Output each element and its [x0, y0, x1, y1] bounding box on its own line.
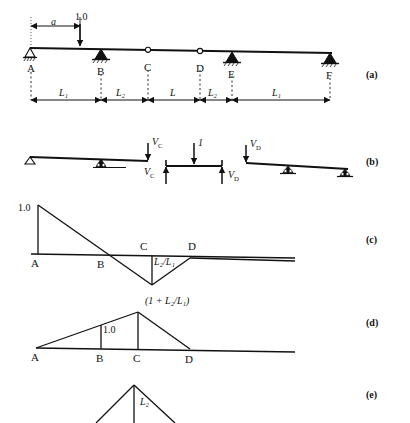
force-label-unit-b: 1 [198, 138, 203, 148]
offset-dim-label-a: a [51, 17, 56, 27]
panel-tag-d: (d) [366, 318, 378, 328]
unit-label-d: 1.0 [103, 325, 116, 335]
dim-label-l2-left: L₂ [116, 88, 125, 98]
slope-a-to-dip-c [38, 205, 152, 285]
slope-a-to-c-d [36, 312, 138, 348]
support-e-symbol-b [280, 166, 296, 174]
node-label-a-c: A [31, 258, 39, 269]
node-label-f: F [326, 70, 332, 81]
force-sub-vc-bottom: C [150, 172, 155, 179]
dimension-chain-a [31, 70, 330, 100]
support-f-symbol-b [337, 169, 353, 177]
force-sub-vd-bottom: D [234, 175, 239, 182]
force-sub-vc-top: C [158, 142, 163, 149]
node-label-d-d: D [185, 354, 193, 365]
node-label-a-d: A [31, 352, 39, 363]
node-label-d-c: D [188, 241, 196, 252]
beam-segment-right-b [246, 163, 348, 169]
dim-label-l2-right: L₂ [208, 88, 217, 98]
dim-label-l1-right: L₁ [272, 88, 281, 98]
dim-label-l: L [170, 88, 176, 98]
panel-tag-e: (e) [366, 390, 377, 400]
node-label-b-d: B [96, 353, 103, 364]
peak-label-d: (1 + L₂/L₁) [145, 296, 189, 306]
panel-e-graphics [96, 385, 175, 423]
panel-b-graphics [25, 143, 353, 184]
node-label-d: D [196, 63, 204, 74]
panel-c-graphics [31, 205, 295, 285]
beam-segment-left-b [30, 157, 148, 161]
node-label-a: A [27, 63, 35, 74]
node-label-c: C [144, 62, 151, 73]
dip-label-c: L₂/L₁ [154, 257, 175, 267]
beam-line-a [30, 48, 332, 53]
force-label-vd-bottom: VD [228, 170, 239, 183]
force-label-vd-top: VD [250, 139, 261, 152]
peak-label-c: 1.0 [18, 203, 31, 213]
figure-vector-layer [0, 0, 410, 423]
force-label-vc-top: VC [152, 137, 163, 150]
peak-label-e: L₂ [140, 397, 149, 407]
panel-tag-c: (c) [366, 235, 377, 245]
panel-tag-a: (a) [366, 70, 378, 80]
force-sub-vd-top: D [256, 144, 261, 151]
panel-tag-b: (b) [366, 157, 378, 167]
slope-c-to-d-d [138, 312, 190, 349]
support-e-symbol [223, 52, 241, 66]
node-label-c-d: C [133, 353, 140, 364]
support-a-symbol [23, 48, 37, 61]
figure-sheet: 1.0 a A B C D E F L₁ L₂ L L₂ L₁ VC 1 VD … [0, 0, 410, 423]
force-label-vc-bottom: VC [144, 167, 155, 180]
baseline-d [36, 348, 295, 352]
support-b-symbol [92, 49, 110, 63]
hinge-d-symbol [197, 48, 202, 53]
unit-load-label-a: 1.0 [75, 12, 88, 22]
node-label-e: E [228, 69, 235, 80]
slope-left-e [96, 385, 134, 423]
hinge-c-symbol [145, 47, 150, 52]
support-f-symbol [321, 53, 339, 67]
node-label-c-c: C [140, 241, 147, 252]
panel-a-graphics [23, 17, 339, 100]
node-label-b: B [97, 66, 104, 77]
node-label-b-c: B [97, 259, 104, 270]
dim-label-l1-left: L₁ [59, 88, 68, 98]
panel-d-graphics [36, 312, 295, 352]
